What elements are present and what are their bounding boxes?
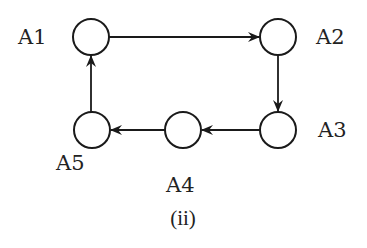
label-a1: A1 — [17, 25, 47, 49]
cycle-diagram: A1 A2 A3 A4 A5 (ii) — [0, 0, 367, 248]
label-a5: A5 — [55, 151, 85, 175]
node-a1 — [73, 19, 109, 55]
label-a2: A2 — [315, 25, 345, 49]
label-a4: A4 — [165, 173, 195, 197]
label-a3: A3 — [317, 118, 347, 142]
node-a3 — [260, 112, 296, 148]
diagram-caption: (ii) — [170, 206, 196, 230]
node-a5 — [74, 112, 110, 148]
node-a2 — [260, 19, 296, 55]
node-a4 — [165, 112, 201, 148]
